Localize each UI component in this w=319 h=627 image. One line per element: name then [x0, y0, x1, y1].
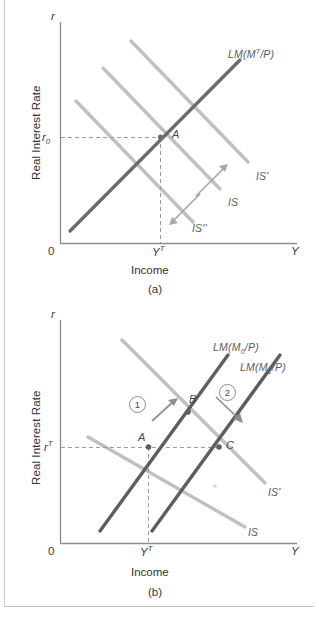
step-one-arrow-line-b — [152, 401, 174, 421]
curve-lm1-b — [152, 355, 280, 531]
origin-label-b: 0 — [48, 545, 54, 557]
curve-label-is-prime-a: IS' — [256, 170, 269, 182]
y-tick-rt-sup-b: T — [48, 439, 53, 448]
curve-is-double-prime-a — [76, 101, 193, 222]
curve-label-lm0-tail-b: /P) — [245, 341, 259, 353]
point-b-marker-b — [185, 409, 191, 415]
y-tick-r0-a: r0 — [42, 131, 50, 143]
origin-label-a: 0 — [48, 245, 54, 257]
y-tick-rt-b: rT — [44, 441, 53, 453]
x-tick-yt-a: YT — [152, 246, 164, 258]
curve-label-lm-main-a: LM(M — [228, 48, 256, 60]
point-a-marker-b — [146, 444, 152, 450]
curve-label-is-prime-b: IS' — [268, 486, 281, 498]
shift-up-arrow-line-a — [196, 167, 225, 196]
curve-is-a — [103, 68, 220, 189]
point-label-c-b: C — [226, 439, 234, 451]
y-axis-title-b: Real Interest Rate — [30, 391, 42, 486]
x-tick-yt-sup-a: T — [160, 244, 165, 253]
step-one-badge: 1 — [129, 396, 146, 413]
y-tick-r0-sub-a: 0 — [46, 137, 50, 146]
y-axis-title-a: Real Interest Rate — [30, 86, 42, 181]
curve-label-lm-tail-a: /P) — [260, 48, 274, 60]
x-axis-title-b: Income — [131, 566, 169, 578]
x-tick-yt-main-b: Y — [140, 546, 148, 558]
panel-b: Real Interest Rate r Y 0 rT YT LM(M0/P) … — [0, 300, 319, 627]
point-label-a-b: A — [138, 431, 145, 443]
point-label-a-a: A — [172, 128, 179, 140]
curve-label-is-a: IS — [228, 196, 238, 208]
x-axis-variable-b: Y — [291, 545, 299, 557]
y-axis-variable-a: r — [51, 10, 55, 22]
curve-label-lm-a: LM(MT/P) — [228, 48, 274, 60]
curve-label-is-double-prime-a: IS'' — [192, 222, 207, 234]
point-a-marker-a — [158, 134, 163, 139]
x-axis-variable-a: Y — [291, 245, 299, 257]
panel-a: Real Interest Rate r Y 0 r0 YT LM(MT/P) … — [0, 0, 319, 300]
panel-caption-a: (a) — [148, 283, 162, 295]
curve-label-lm0-b: LM(M0/P) — [213, 341, 259, 353]
curve-label-lm0-main-b: LM(M — [213, 341, 241, 353]
curve-label-lm1-b: LM(M1/P) — [240, 361, 286, 373]
point-label-b-b: B — [189, 393, 196, 405]
curve-label-lm1-main-b: LM(M — [240, 361, 268, 373]
panel-caption-b: (b) — [148, 586, 162, 598]
x-tick-yt-sup-b: T — [148, 544, 153, 553]
curve-label-is-b: IS — [248, 526, 258, 538]
x-tick-yt-main-a: Y — [152, 246, 160, 258]
y-axis-variable-b: r — [51, 308, 55, 320]
x-tick-yt-b: YT — [140, 546, 152, 558]
curve-lm-a — [70, 60, 240, 231]
shift-down-arrow-line-a — [172, 194, 200, 222]
stray-mark-b — [213, 484, 217, 488]
point-c-marker-b — [216, 444, 222, 450]
curve-label-lm1-tail-b: /P) — [272, 361, 286, 373]
figure-root: Real Interest Rate r Y 0 r0 YT LM(MT/P) … — [0, 0, 319, 627]
x-axis-title-a: Income — [131, 264, 169, 276]
step-two-badge: 2 — [219, 384, 236, 401]
